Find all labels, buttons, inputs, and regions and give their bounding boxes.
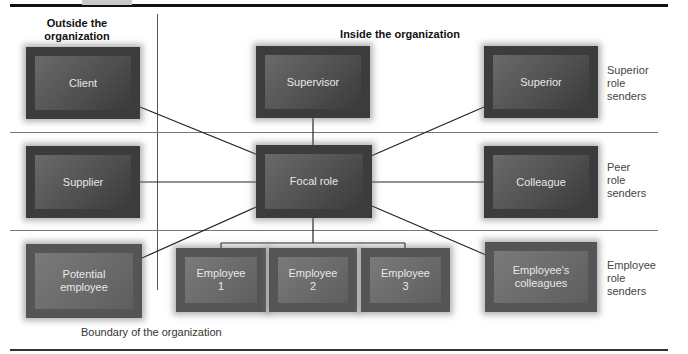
node-focal-role: Focal role (256, 145, 372, 218)
node-client: Client (26, 47, 140, 119)
node-potential-employee: Potential employee (26, 244, 142, 318)
node-employee-3: Employee 3 (361, 248, 450, 312)
node-employee-1-label: Employee 1 (185, 257, 257, 303)
node-supplier-label: Supplier (35, 155, 131, 209)
node-supervisor-label: Supervisor (265, 55, 361, 109)
node-employee-2: Employee 2 (269, 248, 357, 312)
label-peer-role-senders: Peer role senders (607, 161, 646, 200)
node-potential-employee-label: Potential employee (35, 253, 133, 309)
node-employees-colleagues-label: Employee's colleagues (494, 251, 588, 303)
node-employee-2-label: Employee 2 (278, 257, 348, 303)
label-superior-role-senders: Superior role senders (607, 64, 649, 103)
node-colleague-label: Colleague (493, 155, 589, 209)
node-superior: Superior (484, 46, 598, 118)
label-employee-role-senders: Employee role senders (607, 259, 656, 298)
node-colleague: Colleague (484, 146, 598, 218)
node-supervisor: Supervisor (256, 46, 370, 118)
node-employees-colleagues: Employee's colleagues (485, 242, 597, 312)
bottom-rule (10, 349, 668, 351)
node-employee-1: Employee 1 (176, 248, 266, 312)
node-client-label: Client (35, 56, 131, 110)
node-superior-label: Superior (493, 55, 589, 109)
node-employee-3-label: Employee 3 (370, 257, 441, 303)
node-supplier: Supplier (26, 146, 140, 218)
node-focal-role-label: Focal role (265, 154, 363, 209)
boundary-caption: Boundary of the organization (81, 326, 222, 338)
